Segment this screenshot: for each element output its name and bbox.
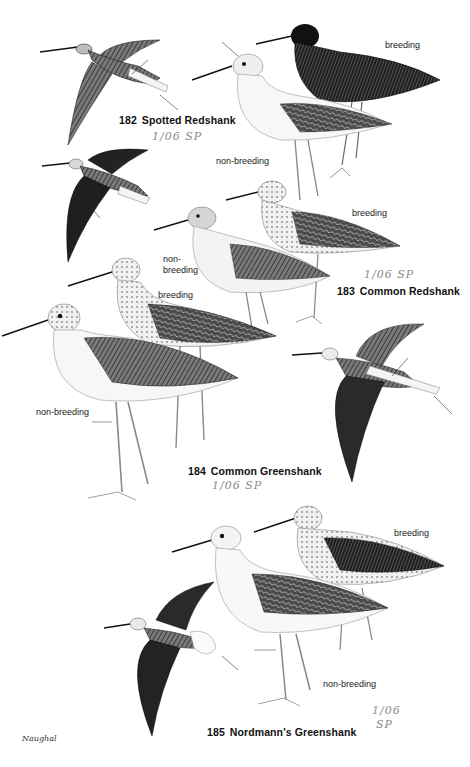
pencil-annotation-185-line1: 1/06 bbox=[372, 704, 401, 717]
common-greenshank-flying bbox=[292, 324, 452, 482]
label-common-greenshank-breeding: breeding bbox=[158, 290, 193, 301]
label-common-redshank-non-breeding-1: non- bbox=[163, 254, 181, 265]
label-spotted-redshank-breeding: breeding bbox=[385, 40, 420, 51]
label-common-redshank-non-breeding-2: breeding bbox=[163, 265, 198, 276]
species-number: 182 bbox=[119, 114, 137, 126]
species-number: 184 bbox=[188, 465, 206, 477]
species-name: Spotted Redshank bbox=[142, 114, 236, 126]
species-title-185: 185Nordmann's Greenshank bbox=[207, 726, 356, 738]
species-number: 185 bbox=[207, 726, 225, 738]
species-title-183: 183Common Redshank bbox=[337, 285, 460, 297]
label-common-greenshank-non-breeding: non-breeding bbox=[36, 407, 89, 418]
pencil-annotation-184: 1/06 SP bbox=[212, 479, 262, 492]
label-nordmanns-greenshank-non-breeding: non-breeding bbox=[323, 679, 376, 690]
label-nordmanns-greenshank-breeding: breeding bbox=[394, 528, 429, 539]
pencil-annotation-185-line2: SP bbox=[376, 718, 393, 731]
spotted-redshank-flying-lower bbox=[42, 149, 150, 262]
label-common-redshank-breeding: breeding bbox=[352, 208, 387, 219]
pencil-annotation-183: 1/06 SP bbox=[364, 268, 414, 281]
species-name: Common Redshank bbox=[360, 285, 460, 297]
species-name: Nordmann's Greenshank bbox=[230, 726, 357, 738]
species-title-184: 184Common Greenshank bbox=[188, 465, 322, 477]
label-spotted-redshank-non-breeding: non-breeding bbox=[216, 156, 269, 167]
species-name: Common Greenshank bbox=[211, 465, 322, 477]
species-number: 183 bbox=[337, 285, 355, 297]
nordmanns-greenshank-flying bbox=[104, 582, 238, 736]
field-guide-plate: breeding non-breeding breeding non- bree… bbox=[0, 0, 470, 767]
pencil-annotation-182: 1/06 SP bbox=[152, 130, 202, 143]
artist-signature: Naughal bbox=[22, 734, 57, 743]
species-title-182: 182Spotted Redshank bbox=[119, 114, 236, 126]
